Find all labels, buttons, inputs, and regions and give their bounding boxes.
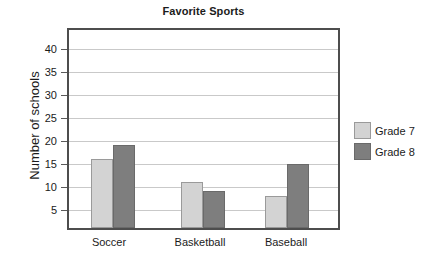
- x-label-soccer: Soccer: [74, 236, 144, 248]
- gridline-35: [69, 72, 338, 73]
- legend-label-grade-7: Grade 7: [375, 125, 415, 137]
- legend-label-grade-8: Grade 8: [375, 146, 415, 158]
- legend-item-grade-8[interactable]: Grade 8: [354, 141, 415, 162]
- plot-inner: [69, 30, 338, 228]
- legend: Grade 7 Grade 8: [354, 120, 415, 162]
- x-label-basketball: Basketball: [162, 236, 238, 248]
- y-tick-label-30: 30: [28, 90, 57, 101]
- y-tick-label-35: 35: [28, 67, 57, 78]
- legend-item-grade-7[interactable]: Grade 7: [354, 120, 415, 141]
- y-tick-label-15: 15: [28, 159, 57, 170]
- chart-title: Favorite Sports: [67, 5, 340, 17]
- bar-baseball-grade-8[interactable]: [287, 164, 309, 228]
- gridline-20: [69, 141, 338, 142]
- y-tick-label-5: 5: [28, 205, 57, 216]
- bar-basketball-grade-7[interactable]: [181, 182, 203, 228]
- bar-soccer-grade-7[interactable]: [91, 159, 113, 228]
- gridline-25: [69, 118, 338, 119]
- y-tick-label-20: 20: [28, 136, 57, 147]
- gridline-40: [69, 49, 338, 50]
- legend-swatch-grade-7: [354, 122, 371, 139]
- y-tick-label-40: 40: [28, 44, 57, 55]
- gridline-30: [69, 95, 338, 96]
- bar-baseball-grade-7[interactable]: [265, 196, 287, 228]
- x-label-baseball: Baseball: [250, 236, 322, 248]
- y-tick-label-10: 10: [28, 182, 57, 193]
- legend-swatch-grade-8: [354, 143, 371, 160]
- y-tick-label-25: 25: [28, 113, 57, 124]
- plot-area: [67, 28, 340, 230]
- bar-soccer-grade-8[interactable]: [113, 145, 135, 228]
- bar-chart-figure: Favorite Sports Number of schools 40 35 …: [0, 0, 441, 266]
- bar-basketball-grade-8[interactable]: [203, 191, 225, 228]
